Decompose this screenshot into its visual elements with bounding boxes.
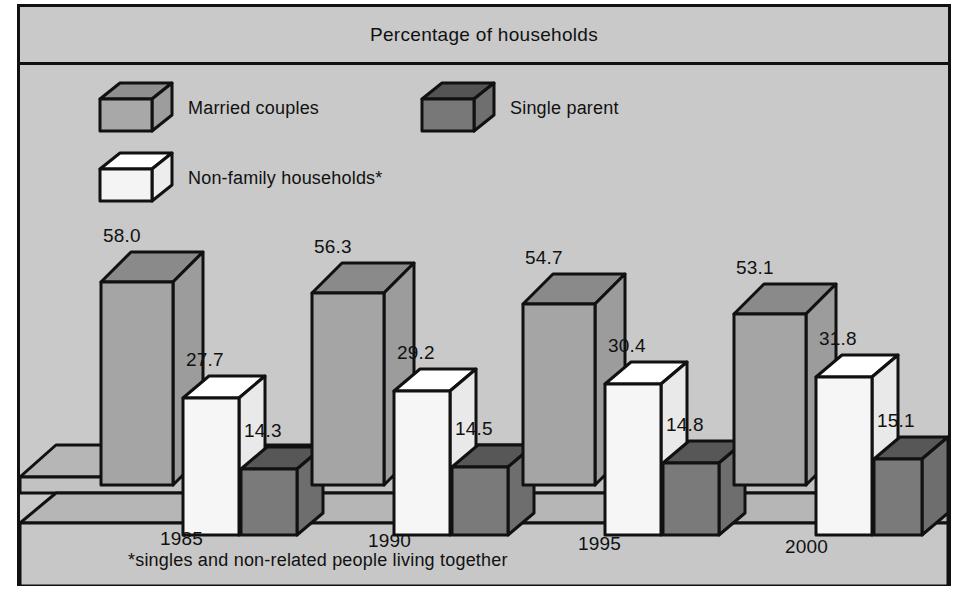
footnote: *singles and non-related people living t…	[128, 550, 508, 571]
axis-tick-label-2000: 2000	[785, 536, 828, 558]
value-label-nonfamily-1990: 29.2	[397, 342, 435, 364]
value-label-married-1990: 56.3	[314, 236, 352, 258]
page-title: Percentage of households	[370, 24, 598, 46]
bar-single-2000	[874, 437, 948, 535]
axis-tick-label-1995: 1995	[578, 533, 621, 555]
chart-screenshot: Percentage of households Married couples	[0, 0, 969, 608]
bars-canvas	[20, 65, 948, 586]
value-label-nonfamily-1995: 30.4	[608, 335, 646, 357]
value-label-single-2000: 15.1	[877, 410, 915, 432]
value-label-married-2000: 53.1	[736, 257, 774, 279]
axis-tick-label-1985: 1985	[160, 528, 203, 550]
chart-frame: Percentage of households Married couples	[17, 4, 951, 586]
value-label-single-1985: 14.3	[244, 420, 282, 442]
value-label-married-1995: 54.7	[525, 247, 563, 269]
value-label-single-1990: 14.5	[455, 418, 493, 440]
axis-tick-label-1990: 1990	[368, 530, 411, 552]
value-label-married-1985: 58.0	[103, 225, 141, 247]
plot-area: 58.0 27.7 14.3 56.3 29.2 14.5 54.7 30.4 …	[20, 65, 948, 583]
value-label-nonfamily-2000: 31.8	[819, 328, 857, 350]
title-bar: Percentage of households	[20, 7, 948, 65]
value-label-nonfamily-1985: 27.7	[186, 349, 224, 371]
value-label-single-1995: 14.8	[666, 414, 704, 436]
